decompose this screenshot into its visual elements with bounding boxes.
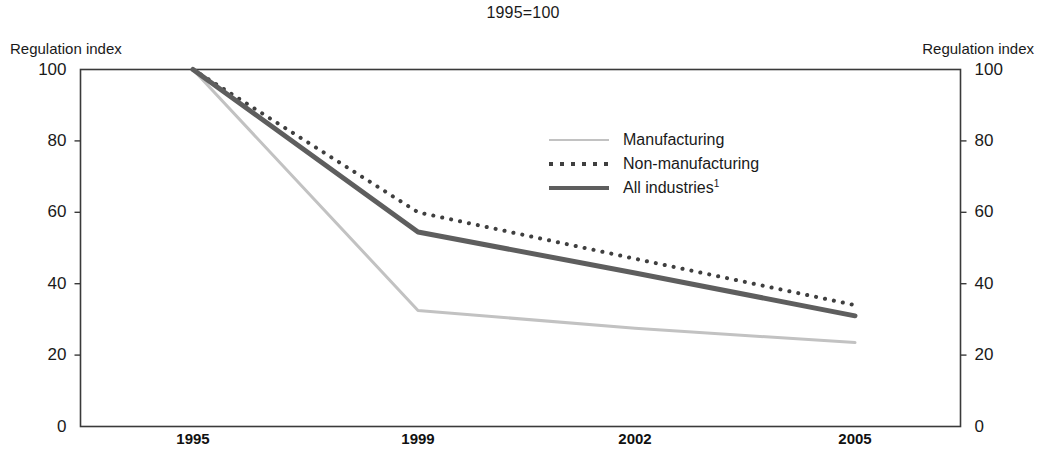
y-axis-tick-label-right-60: 60 — [975, 203, 1025, 220]
chart-figure: 1995=100 Regulation index Regulation ind… — [0, 0, 1046, 462]
y-axis-tick-label-left-60: 60 — [17, 203, 67, 220]
y-axis-tick-label-left-100: 100 — [17, 61, 67, 78]
legend-item-2[interactable]: All industries1 — [549, 176, 759, 200]
y-axis-ticks-left — [75, 141, 81, 355]
y-axis-tick-label-right-40: 40 — [975, 275, 1025, 292]
x-axis-tick-label-1999: 1999 — [373, 430, 463, 447]
x-axis-tick-label-2002: 2002 — [590, 430, 680, 447]
y-axis-tick-label-right-80: 80 — [975, 132, 1025, 149]
y-axis-tick-label-right-100: 100 — [975, 61, 1025, 78]
legend-label-2: All industries1 — [623, 178, 719, 197]
y-axis-tick-label-left-0: 0 — [17, 418, 67, 435]
y-axis-ticks-right — [961, 141, 967, 355]
legend-marker-icon-2 — [549, 181, 609, 195]
plot-frame — [81, 70, 961, 427]
x-axis-tick-label-2005: 2005 — [810, 430, 900, 447]
series-lines — [193, 70, 855, 343]
legend-marker-icon-0 — [549, 133, 609, 147]
plot-area — [0, 0, 1046, 462]
y-axis-tick-label-left-20: 20 — [17, 346, 67, 363]
y-axis-tick-label-left-40: 40 — [17, 275, 67, 292]
legend-marker-icon-1 — [549, 157, 609, 171]
chart-legend: ManufacturingNon-manufacturingAll indust… — [549, 128, 759, 200]
x-axis-tick-label-1995: 1995 — [148, 430, 238, 447]
series-line-0 — [193, 70, 855, 343]
y-axis-tick-label-right-20: 20 — [975, 346, 1025, 363]
legend-label-1: Non-manufacturing — [623, 155, 759, 173]
legend-item-1[interactable]: Non-manufacturing — [549, 152, 759, 176]
legend-label-0: Manufacturing — [623, 131, 724, 149]
y-axis-tick-label-right-0: 0 — [975, 418, 1025, 435]
legend-item-0[interactable]: Manufacturing — [549, 128, 759, 152]
y-axis-tick-label-left-80: 80 — [17, 132, 67, 149]
